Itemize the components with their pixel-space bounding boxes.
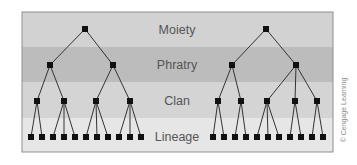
- clan-node-icon: [238, 98, 244, 104]
- lineage-node-icon: [28, 134, 34, 140]
- lineage-node-icon: [320, 134, 326, 140]
- clan-node-icon: [127, 98, 133, 104]
- lineage-node-icon: [50, 134, 56, 140]
- phratry-node-icon: [110, 62, 116, 68]
- lineage-node-icon: [72, 134, 78, 140]
- copyright-credit: © Cengage Learning: [340, 78, 348, 143]
- clan-node-icon: [93, 98, 99, 104]
- label-phratry: Phratry: [157, 58, 198, 72]
- clan-node-icon: [314, 98, 320, 104]
- lineage-node-icon: [232, 134, 238, 140]
- lineage-node-icon: [276, 134, 282, 140]
- lineage-node-icon: [309, 134, 315, 140]
- lineage-node-icon: [221, 134, 227, 140]
- lineage-node-icon: [105, 134, 111, 140]
- label-moiety: Moiety: [159, 23, 197, 37]
- lineage-node-icon: [243, 134, 249, 140]
- lineage-node-icon: [116, 134, 122, 140]
- lineage-node-icon: [138, 134, 144, 140]
- descent-hierarchy-diagram: Moiety Phratry Clan Lineage © Cengage Le…: [0, 0, 357, 165]
- label-clan: Clan: [164, 94, 190, 108]
- lineage-node-icon: [94, 134, 100, 140]
- phratry-node-icon: [47, 62, 53, 68]
- label-lineage: Lineage: [155, 130, 200, 144]
- lineage-node-icon: [265, 134, 271, 140]
- lineage-node-icon: [254, 134, 260, 140]
- moiety-node-icon: [82, 26, 88, 32]
- lineage-node-icon: [127, 134, 133, 140]
- moiety-node-icon: [263, 26, 269, 32]
- lineage-node-icon: [287, 134, 293, 140]
- clan-node-icon: [292, 98, 298, 104]
- lineage-node-icon: [298, 134, 304, 140]
- phratry-node-icon: [293, 62, 299, 68]
- clan-node-icon: [264, 98, 270, 104]
- phratry-node-icon: [229, 62, 235, 68]
- clan-node-icon: [61, 98, 67, 104]
- lineage-node-icon: [39, 134, 45, 140]
- lineage-node-icon: [61, 134, 67, 140]
- clan-node-icon: [34, 98, 40, 104]
- lineage-node-icon: [210, 134, 216, 140]
- clan-node-icon: [215, 98, 221, 104]
- lineage-node-icon: [83, 134, 89, 140]
